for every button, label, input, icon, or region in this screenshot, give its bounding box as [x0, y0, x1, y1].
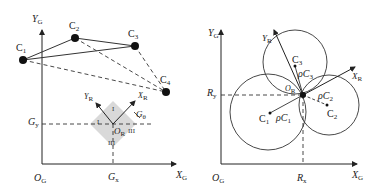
circle-c2-center-label: C2 [327, 109, 337, 121]
right-yr-label: YR [262, 34, 272, 45]
circle-c1-center-label: C1 [259, 114, 269, 126]
robot-center-or [300, 92, 306, 98]
left-x-axis-label: XG [176, 170, 187, 182]
sector-label-3: III [108, 140, 115, 147]
node-c2 [71, 34, 79, 42]
gy-label: Gy [28, 117, 39, 129]
node-c1-label: C1 [16, 43, 26, 55]
sector-label-1: I [112, 106, 114, 113]
node-c3 [131, 42, 139, 50]
right-or-label: OR [285, 85, 295, 95]
node-c1 [19, 56, 27, 64]
circle-c3-center-label: C3 [292, 55, 302, 67]
circle-c2 [299, 75, 359, 135]
rx-label: Rx [297, 173, 307, 185]
robot-xr-label: XR [138, 92, 148, 102]
node-c2-label: C2 [69, 21, 79, 33]
robot-theta-label: Gθ [136, 110, 146, 121]
right-y-axis-label: YG [208, 28, 219, 40]
left-y-axis-label: YG [32, 14, 43, 26]
ry-label: Ry [207, 88, 217, 100]
right-xr-label: XR [352, 72, 362, 83]
sector-label-2: I [97, 119, 99, 126]
node-c3-label: C3 [128, 29, 138, 41]
circle-c3-radius-label: ρC3 [298, 69, 313, 81]
left-panel [19, 30, 176, 164]
circle-c2-radius-label: ρC2 [318, 91, 333, 103]
sector-label-4: III [128, 128, 135, 135]
robot-or-label: OR [114, 127, 125, 138]
right-x-axis-label: XG [352, 170, 363, 182]
node-c4 [162, 88, 170, 96]
right-panel [221, 30, 359, 164]
node-c4-label: C4 [160, 75, 170, 87]
gx-label: Gx [108, 172, 119, 184]
right-origin-label: OG [212, 173, 224, 185]
circle-c1-radius-label: ρC1 [276, 113, 291, 125]
left-origin-label: OG [34, 173, 46, 185]
robot-yr-label: YR [84, 93, 93, 103]
